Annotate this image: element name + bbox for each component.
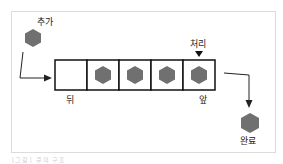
done-item-hexagon-icon bbox=[241, 113, 259, 133]
figure-caption: [그림] 큐의 구조 bbox=[12, 155, 67, 164]
process-pointer-icon bbox=[195, 51, 203, 57]
enqueue-arrow bbox=[20, 52, 45, 78]
process-label: 처리 bbox=[190, 39, 206, 49]
front-label: 앞 bbox=[199, 95, 207, 105]
dequeue-arrow bbox=[224, 73, 249, 102]
enqueue-label: 추가 bbox=[37, 17, 53, 27]
rear-label: 뒤 bbox=[66, 95, 74, 105]
done-label: 완료 bbox=[240, 136, 256, 146]
enqueue-item-hexagon-icon bbox=[25, 29, 41, 47]
